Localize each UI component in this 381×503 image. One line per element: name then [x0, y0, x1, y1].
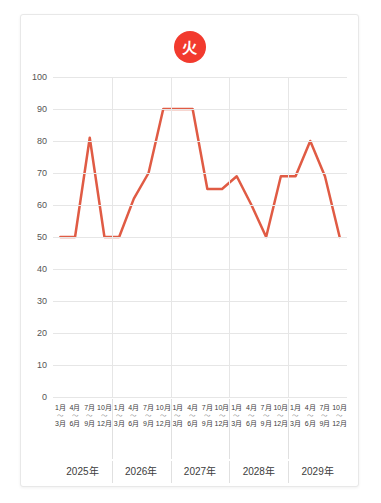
- chart-card: 火 0102030405060708090100 1月〜3月4月〜6月7月〜9月…: [20, 14, 359, 487]
- year-separator: [288, 77, 289, 397]
- x-axis-tick-label: 4月〜6月: [303, 401, 318, 459]
- x-axis-tick-label: 10月〜12月: [215, 401, 230, 459]
- y-gridline: 90: [53, 109, 347, 110]
- year-label: 2028年: [229, 467, 288, 477]
- x-axis-tick-label: 10月〜12月: [97, 401, 112, 459]
- x-axis-tick-label: 1月〜3月: [288, 401, 303, 459]
- x-axis-tick-label: 10月〜12月: [273, 401, 288, 459]
- x-axis-tick-label: 7月〜9月: [141, 401, 156, 459]
- y-axis-tick-label: 20: [37, 329, 47, 338]
- y-gridline: 20: [53, 333, 347, 334]
- x-axis: 1月〜3月4月〜6月7月〜9月10月〜12月1月〜3月4月〜6月7月〜9月10月…: [53, 401, 347, 485]
- y-axis-tick-label: 0: [42, 393, 47, 402]
- x-axis-tick-label: 10月〜12月: [332, 401, 347, 459]
- x-axis-tick-label: 1月〜3月: [53, 401, 68, 459]
- x-axis-tick-label: 7月〜9月: [259, 401, 274, 459]
- quarter-group: 1月〜3月4月〜6月7月〜9月10月〜12月: [229, 401, 288, 459]
- y-gridline: 30: [53, 301, 347, 302]
- year-label: 2029年: [288, 467, 347, 477]
- y-axis-tick-label: 90: [37, 105, 47, 114]
- y-gridline: 10: [53, 365, 347, 366]
- y-axis-tick-label: 80: [37, 137, 47, 146]
- y-gridline: 40: [53, 269, 347, 270]
- y-gridline: 60: [53, 205, 347, 206]
- badge-row: 火: [21, 31, 358, 63]
- y-gridline: 80: [53, 141, 347, 142]
- x-axis-tick-label: 7月〜9月: [82, 401, 97, 459]
- y-axis-tick-label: 70: [37, 169, 47, 178]
- x-axis-tick-label: 4月〜6月: [185, 401, 200, 459]
- y-axis-tick-label: 100: [32, 73, 47, 82]
- x-axis-tick-label: 1月〜3月: [229, 401, 244, 459]
- quarter-group: 1月〜3月4月〜6月7月〜9月10月〜12月: [171, 401, 230, 459]
- year-label: 2026年: [112, 467, 171, 477]
- x-axis-tick-label: 4月〜6月: [68, 401, 83, 459]
- x-axis-tick-label: 1月〜3月: [171, 401, 186, 459]
- year-separator: [112, 77, 113, 397]
- y-axis-tick-label: 50: [37, 233, 47, 242]
- x-axis-tick-label: 10月〜12月: [156, 401, 171, 459]
- y-axis-tick-label: 40: [37, 265, 47, 274]
- quarter-group: 1月〜3月4月〜6月7月〜9月10月〜12月: [288, 401, 347, 459]
- y-axis-tick-label: 30: [37, 297, 47, 306]
- tuesday-badge[interactable]: 火: [174, 31, 206, 63]
- tuesday-badge-label: 火: [182, 40, 197, 55]
- x-axis-tick-label: 4月〜6月: [126, 401, 141, 459]
- year-label: 2025年: [53, 467, 112, 477]
- y-axis-tick-label: 10: [37, 361, 47, 370]
- year-labels: 2025年2026年2027年2028年2029年: [53, 459, 347, 485]
- x-axis-tick-label: 7月〜9月: [318, 401, 333, 459]
- plot-area: 0102030405060708090100: [53, 77, 347, 397]
- quarter-group: 1月〜3月4月〜6月7月〜9月10月〜12月: [53, 401, 112, 459]
- x-axis-tick-label: 7月〜9月: [200, 401, 215, 459]
- line-chart: 0102030405060708090100 1月〜3月4月〜6月7月〜9月10…: [21, 73, 360, 488]
- year-label: 2027年: [171, 467, 230, 477]
- quarter-labels: 1月〜3月4月〜6月7月〜9月10月〜12月1月〜3月4月〜6月7月〜9月10月…: [53, 401, 347, 459]
- x-axis-tick-label: 1月〜3月: [112, 401, 127, 459]
- y-gridline: 50: [53, 237, 347, 238]
- y-gridline: 0: [53, 397, 347, 398]
- y-gridline: 70: [53, 173, 347, 174]
- quarter-group: 1月〜3月4月〜6月7月〜9月10月〜12月: [112, 401, 171, 459]
- year-separator: [171, 77, 172, 397]
- x-axis-tick-label: 4月〜6月: [244, 401, 259, 459]
- chart-screen: 火 0102030405060708090100 1月〜3月4月〜6月7月〜9月…: [0, 0, 381, 503]
- year-separator: [229, 77, 230, 397]
- y-axis-tick-label: 60: [37, 201, 47, 210]
- y-gridline: 100: [53, 77, 347, 78]
